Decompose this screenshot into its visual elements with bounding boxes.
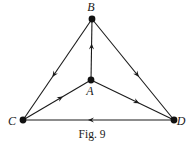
node-label-a: A — [85, 84, 94, 98]
graph-edges — [23, 19, 174, 120]
figure-caption: Fig. 9 — [79, 128, 106, 141]
edge-c-to-a — [23, 80, 91, 120]
edge-b-to-c — [23, 19, 92, 120]
node-b — [89, 16, 96, 23]
node-c — [20, 117, 27, 124]
edge-a-to-d — [91, 80, 174, 120]
node-label-b: B — [87, 0, 95, 14]
node-label-d: D — [176, 114, 186, 128]
node-label-c: C — [8, 114, 17, 128]
graph-nodes — [20, 16, 178, 124]
edge-a-to-b — [91, 19, 92, 80]
graph-arrowheads — [52, 43, 139, 122]
node-a — [88, 77, 95, 84]
edge-b-to-d — [92, 19, 174, 120]
directed-graph-figure: ABCD Fig. 9 — [0, 0, 195, 147]
arrowhead-icon — [52, 71, 58, 77]
graph-node-labels: ABCD — [8, 0, 186, 128]
